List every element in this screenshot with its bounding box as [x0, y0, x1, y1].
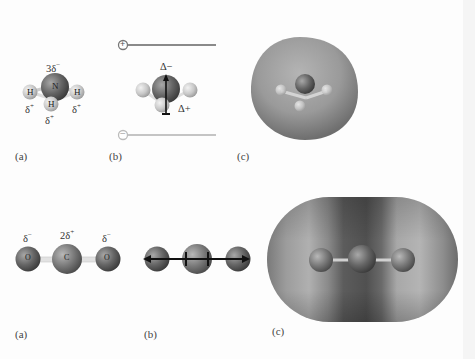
- charge-sign: +: [50, 113, 54, 121]
- panel-label-bottom-c: (c): [272, 325, 284, 337]
- dipole-positive-label: Δ+: [178, 104, 191, 115]
- charge-sign: −: [28, 231, 32, 239]
- atom-h-right-label: H: [74, 88, 81, 97]
- charge-sign: +: [70, 228, 74, 236]
- plus-plate-sign: +: [120, 39, 125, 49]
- h-left-charge-label: δ+: [25, 103, 34, 115]
- charge-value: 3δ: [46, 63, 56, 74]
- charge-value: 2δ: [60, 230, 70, 241]
- h-right-charge-label: δ+: [72, 103, 81, 115]
- dipole-negative-label: Δ−: [160, 62, 173, 73]
- panel-label-top-c: (c): [237, 150, 249, 162]
- atom-h-left-label: H: [27, 88, 34, 97]
- panel-label-top-a: (a): [15, 150, 27, 162]
- co2-potential-surface: [267, 197, 458, 322]
- charge-sign: −: [56, 61, 60, 69]
- atom-o-left-label: O: [25, 254, 31, 262]
- c-charge-label: 2δ+: [60, 229, 74, 241]
- panel-label-top-b: (b): [109, 150, 122, 162]
- o-left-charge-label: δ−: [23, 232, 32, 244]
- minus-plate-sign: −: [120, 128, 126, 139]
- figure-graphics: [0, 0, 475, 359]
- charge-sign: −: [107, 231, 111, 239]
- co2-dipole-model: [143, 244, 251, 274]
- atom-c-label: C: [64, 254, 69, 262]
- h-bottom-charge-label: δ+: [45, 114, 54, 126]
- atom-n-label: N: [52, 82, 59, 91]
- o-right-charge-label: δ−: [102, 232, 111, 244]
- panel-label-bottom-a: (a): [15, 328, 27, 340]
- atom-h-bottom-label: H: [48, 100, 55, 109]
- atom-o-right-label: O: [104, 254, 110, 262]
- panel-label-bottom-b: (b): [144, 328, 157, 340]
- charge-sign: +: [30, 102, 34, 110]
- nh3-potential-surface: [251, 37, 358, 140]
- nitrogen-charge-label: 3δ−: [46, 62, 60, 74]
- charge-sign: +: [77, 102, 81, 110]
